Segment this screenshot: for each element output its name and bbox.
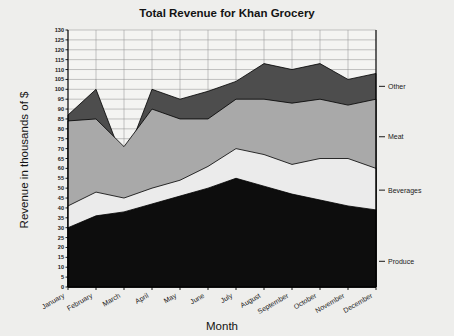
y-tick-label: 25 (58, 235, 64, 241)
y-tick-label: 40 (58, 205, 64, 211)
legend-label-beverages: Beverages (388, 187, 422, 195)
legend-label-meat: Meat (388, 133, 404, 140)
y-tick-label: 75 (58, 136, 64, 142)
y-tick-label: 125 (55, 37, 64, 43)
y-tick-label: 105 (55, 76, 64, 82)
y-tick-label: 65 (58, 156, 64, 162)
y-tick-label: 5 (61, 274, 64, 280)
y-tick-label: 0 (61, 284, 64, 290)
legend-label-other: Other (388, 83, 406, 90)
y-tick-label: 55 (58, 175, 64, 181)
x-axis-title: Month (206, 320, 238, 332)
y-tick-label: 120 (55, 47, 64, 53)
y-tick-label: 80 (58, 126, 64, 132)
y-tick-label: 15 (58, 254, 64, 260)
y-tick-label: 100 (55, 86, 64, 92)
y-tick-label: 20 (58, 244, 64, 250)
y-tick-label: 70 (58, 146, 64, 152)
y-tick-label: 50 (58, 185, 64, 191)
y-tick-label: 10 (58, 264, 64, 270)
chart-title: Total Revenue for Khan Grocery (139, 7, 315, 19)
y-tick-label: 130 (55, 27, 64, 33)
legend-label-produce: Produce (388, 258, 414, 265)
y-tick-label: 35 (58, 215, 64, 221)
stacked-area-chart: Total Revenue for Khan Grocery Revenue i… (0, 0, 454, 336)
y-tick-label: 60 (58, 165, 64, 171)
y-tick-label: 90 (58, 106, 64, 112)
y-tick-label: 85 (58, 116, 64, 122)
chart-container: Total Revenue for Khan Grocery Revenue i… (0, 0, 454, 336)
y-tick-label: 45 (58, 195, 64, 201)
y-tick-label: 115 (55, 57, 64, 63)
y-tick-label: 30 (58, 225, 64, 231)
y-tick-label: 110 (55, 67, 64, 73)
y-axis-title: Revenue in thousands of $ (18, 91, 30, 228)
y-tick-label: 95 (58, 96, 64, 102)
